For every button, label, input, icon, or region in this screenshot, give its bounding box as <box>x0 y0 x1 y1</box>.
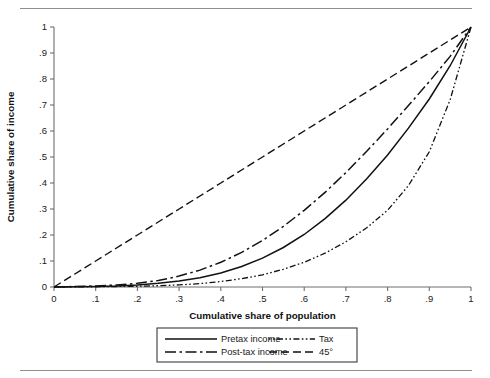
y-tick-label: 1 <box>42 21 47 32</box>
x-axis-title: Cumulative share of population <box>189 310 335 321</box>
axes-group: 0.1.2.3.4.5.6.7.8.91 0.1.2.3.4.5.6.7.8.9… <box>39 21 474 304</box>
legend-label-pretax-income[interactable]: Pretax income <box>221 334 280 344</box>
x-tick-label: .6 <box>300 293 308 304</box>
lorenz-curve-figure: 0.1.2.3.4.5.6.7.8.91 0.1.2.3.4.5.6.7.8.9… <box>0 12 490 368</box>
x-tick-label: .5 <box>259 293 267 304</box>
y-tick-label: 0 <box>42 281 47 292</box>
legend-label-45[interactable]: 45° <box>319 347 333 357</box>
plot-series-group <box>54 27 471 287</box>
y-axis-ticks: 0.1.2.3.4.5.6.7.8.91 <box>39 21 54 292</box>
x-tick-label: 1 <box>468 293 473 304</box>
x-tick-label: .3 <box>175 293 183 304</box>
legend-label-post-tax-income[interactable]: Post-tax income <box>221 347 288 357</box>
chart-canvas: 0.1.2.3.4.5.6.7.8.91 0.1.2.3.4.5.6.7.8.9… <box>0 12 490 368</box>
y-tick-label: .1 <box>39 255 47 266</box>
x-tick-label: .2 <box>133 293 141 304</box>
legend-label-tax[interactable]: Tax <box>319 334 334 344</box>
y-tick-label: .8 <box>39 73 47 84</box>
x-tick-label: .4 <box>217 293 225 304</box>
chart-legend[interactable]: Pretax incomeTaxPost-tax income45° <box>157 328 357 362</box>
y-tick-label: .3 <box>39 203 47 214</box>
y-tick-label: .4 <box>39 177 47 188</box>
series-line-45 <box>54 27 471 287</box>
x-tick-label: .7 <box>342 293 350 304</box>
y-tick-label: .9 <box>39 47 47 58</box>
y-axis-title: Cumulative share of income <box>5 91 16 222</box>
y-tick-label: .5 <box>39 151 47 162</box>
x-tick-label: .8 <box>384 293 392 304</box>
x-tick-label: .1 <box>92 293 100 304</box>
y-tick-label: .7 <box>39 99 47 110</box>
x-axis-ticks: 0.1.2.3.4.5.6.7.8.91 <box>51 287 473 304</box>
y-tick-label: .6 <box>39 125 47 136</box>
top-horizontal-rule <box>20 8 472 9</box>
x-tick-label: .9 <box>425 293 433 304</box>
y-tick-label: .2 <box>39 229 47 240</box>
bottom-horizontal-rule <box>20 370 472 371</box>
x-tick-label: 0 <box>51 293 56 304</box>
